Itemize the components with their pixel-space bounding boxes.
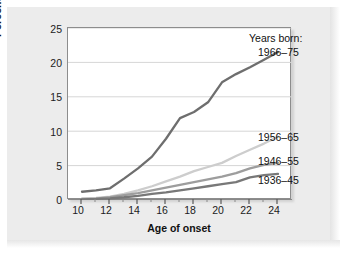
- y-tick-10: 10: [42, 127, 62, 138]
- y-tick-5: 5: [42, 161, 62, 172]
- chart-figure: 25 20 15 10 5 0 Percent of population 10…: [0, 0, 347, 257]
- series-line-1946-55: [82, 163, 278, 199]
- y-tick-0: 0: [42, 195, 62, 206]
- series-label-1966-75: 1966–75: [258, 47, 299, 58]
- data-lines: [82, 52, 278, 199]
- series-label-1936-45: 1936–45: [258, 175, 299, 186]
- x-axis-title: Age of onset: [67, 222, 291, 234]
- series-label-1946-55: 1946–55: [258, 156, 299, 167]
- y-tick-20: 20: [42, 58, 62, 69]
- panel-right-edge-shade: [330, 7, 340, 240]
- y-tick-15: 15: [42, 92, 62, 103]
- series-label-1956-65: 1956–65: [258, 132, 299, 143]
- series-line-1966-75: [82, 52, 278, 192]
- x-axis-tickmarks: [60, 199, 300, 209]
- legend-title: Years born:: [249, 33, 302, 44]
- y-axis-title: Percent of population: [0, 0, 3, 52]
- y-tick-25: 25: [42, 24, 62, 35]
- panel-bottom-edge-shade: [7, 240, 340, 248]
